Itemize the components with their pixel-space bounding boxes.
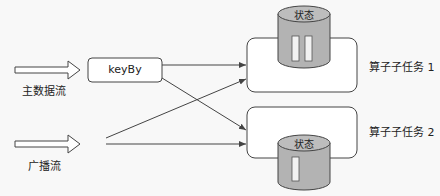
- state-label-2: 状态: [278, 136, 330, 151]
- state-label-1: 状态: [278, 7, 330, 22]
- edge-broadcast-task1: [106, 79, 246, 138]
- state-slot: [292, 157, 299, 181]
- keyby-label: keyBy: [88, 63, 162, 76]
- task-label-2: 算子子任务 2: [369, 123, 435, 139]
- edge-keyby-task2: [162, 78, 246, 130]
- broadcast-stream-arrow-icon: [15, 135, 80, 153]
- main-stream-label: 主数据流: [22, 82, 66, 98]
- main-stream-arrow-icon: [15, 61, 80, 79]
- diagram-canvas: [0, 0, 440, 196]
- broadcast-stream-label: 广播流: [28, 157, 61, 173]
- state-slot: [305, 36, 312, 61]
- state-slot: [292, 36, 299, 61]
- task-label-1: 算子子任务 1: [369, 58, 435, 74]
